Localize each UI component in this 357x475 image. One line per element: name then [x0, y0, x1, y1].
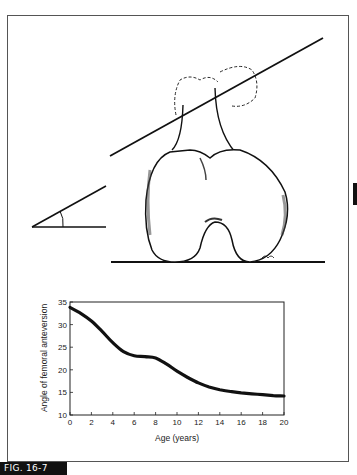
- angle-diagram: [32, 186, 106, 227]
- y-tick-label: 35: [58, 298, 67, 307]
- x-tick-label: 16: [237, 418, 246, 427]
- y-tick-label: 20: [58, 366, 67, 375]
- femoral-neck-axis-line: [110, 38, 323, 156]
- x-tick-label: 8: [153, 418, 158, 427]
- x-tick-label: 18: [258, 418, 267, 427]
- plot-area: [70, 302, 284, 415]
- femur-drawing: [146, 66, 288, 262]
- y-tick-label: 15: [58, 388, 67, 397]
- x-axis: 02468101214161820: [68, 412, 289, 427]
- y-tick-label: 30: [58, 321, 67, 330]
- y-axis: 101520253035: [58, 298, 73, 420]
- anteversion-chart: 101520253035 02468101214161820 Age (year…: [39, 298, 289, 443]
- anteversion-curve: [70, 307, 284, 396]
- x-tick-label: 4: [111, 418, 116, 427]
- x-tick-label: 6: [132, 418, 137, 427]
- figure-canvas: 101520253035 02468101214161820 Age (year…: [0, 0, 357, 475]
- y-tick-label: 25: [58, 343, 67, 352]
- y-axis-title: Angle of femoral anteversion: [39, 304, 49, 412]
- x-tick-label: 20: [280, 418, 289, 427]
- x-tick-label: 14: [215, 418, 224, 427]
- x-tick-label: 0: [68, 418, 73, 427]
- x-tick-label: 10: [173, 418, 182, 427]
- figure-label: FIG. 16-7: [0, 462, 67, 475]
- x-tick-label: 12: [194, 418, 203, 427]
- x-axis-title: Age (years): [155, 433, 199, 443]
- y-tick-label: 10: [58, 411, 67, 420]
- x-tick-label: 2: [89, 418, 94, 427]
